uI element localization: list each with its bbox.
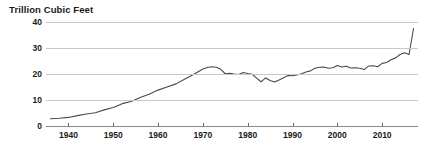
x-tick-2000 (337, 123, 338, 126)
x-tick-1940 (68, 123, 69, 126)
chart-title: Trillion Cubic Feet (9, 4, 93, 15)
y-tick-label-10: 10 (33, 95, 42, 105)
x-tick-label-1960: 1960 (149, 130, 168, 140)
x-tick-label-2000: 2000 (328, 130, 347, 140)
y-tick-label-0: 0 (37, 121, 42, 131)
gridline-y-40 (46, 22, 418, 23)
x-tick-label-1980: 1980 (238, 130, 257, 140)
x-tick-1970 (203, 123, 204, 126)
x-axis-tick-labels: 19401950196019701980199020002010 (46, 130, 418, 144)
x-axis-ticks (46, 123, 418, 127)
y-tick-label-30: 30 (33, 43, 42, 53)
y-axis-tick-labels: 010203040 (20, 22, 42, 126)
gridline-y-30 (46, 48, 418, 49)
x-tick-label-1970: 1970 (193, 130, 212, 140)
plot-area (46, 22, 418, 126)
y-tick-label-40: 40 (33, 17, 42, 27)
y-tick-label-20: 20 (33, 69, 42, 79)
gridline-y-10 (46, 100, 418, 101)
x-tick-1950 (113, 123, 114, 126)
x-tick-label-1950: 1950 (104, 130, 123, 140)
x-tick-1990 (293, 123, 294, 126)
gridline-y-20 (46, 74, 418, 75)
x-tick-label-1990: 1990 (283, 130, 302, 140)
x-tick-1960 (158, 123, 159, 126)
x-tick-1980 (248, 123, 249, 126)
caption-sliver (8, 149, 308, 154)
x-tick-label-1940: 1940 (59, 130, 78, 140)
x-tick-label-2010: 2010 (373, 130, 392, 140)
chart-container: Trillion Cubic Feet 010203040 1940195019… (0, 0, 428, 154)
x-tick-2010 (382, 123, 383, 126)
